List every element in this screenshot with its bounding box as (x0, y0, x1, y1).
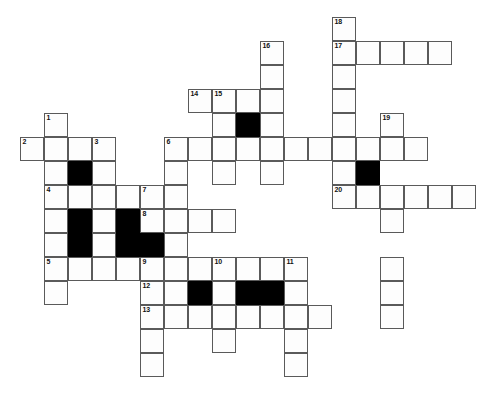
crossword-cell[interactable]: 17 (332, 41, 356, 65)
crossword-cell[interactable] (332, 161, 356, 185)
crossword-cell[interactable] (212, 113, 236, 137)
crossword-cell[interactable]: 14 (188, 89, 212, 113)
crossword-cell[interactable]: 4 (44, 185, 68, 209)
crossword-cell[interactable] (92, 185, 116, 209)
crossword-cell[interactable]: 8 (140, 209, 164, 233)
crossword-grid[interactable]: 1816171415119236472085910111213 (0, 0, 489, 405)
crossword-cell[interactable] (164, 305, 188, 329)
crossword-cell[interactable]: 15 (212, 89, 236, 113)
crossword-cell[interactable] (356, 41, 380, 65)
crossword-cell[interactable]: 9 (140, 257, 164, 281)
crossword-cell[interactable] (260, 257, 284, 281)
crossword-cell[interactable] (356, 185, 380, 209)
crossword-cell[interactable] (164, 161, 188, 185)
cell-number-17: 17 (335, 42, 342, 50)
crossword-cell[interactable] (188, 305, 212, 329)
crossword-cell[interactable] (236, 305, 260, 329)
crossword-cell[interactable] (116, 257, 140, 281)
crossword-cell[interactable] (260, 89, 284, 113)
crossword-cell[interactable] (212, 305, 236, 329)
crossword-cell[interactable] (92, 161, 116, 185)
crossword-cell[interactable] (332, 113, 356, 137)
crossword-cell[interactable] (308, 137, 332, 161)
crossword-cell[interactable]: 6 (164, 137, 188, 161)
crossword-cell[interactable] (164, 209, 188, 233)
crossword-cell[interactable] (44, 209, 68, 233)
crossword-cell[interactable] (188, 209, 212, 233)
crossword-cell[interactable] (68, 137, 92, 161)
crossword-cell[interactable]: 7 (140, 185, 164, 209)
crossword-cell[interactable] (284, 281, 308, 305)
crossword-cell[interactable] (404, 41, 428, 65)
crossword-cell[interactable] (212, 161, 236, 185)
crossword-cell[interactable] (140, 353, 164, 377)
crossword-cell[interactable]: 3 (92, 137, 116, 161)
crossword-cell[interactable] (404, 137, 428, 161)
crossword-cell[interactable] (452, 185, 476, 209)
crossword-cell[interactable] (164, 233, 188, 257)
crossword-cell[interactable]: 2 (20, 137, 44, 161)
crossword-cell[interactable]: 11 (284, 257, 308, 281)
crossword-cell[interactable] (260, 161, 284, 185)
crossword-cell[interactable] (428, 41, 452, 65)
crossword-cell[interactable]: 5 (44, 257, 68, 281)
crossword-cell[interactable] (164, 281, 188, 305)
crossword-cell[interactable] (44, 233, 68, 257)
crossword-cell[interactable] (212, 329, 236, 353)
crossword-cell[interactable] (140, 329, 164, 353)
cell-number-15: 15 (215, 90, 222, 98)
crossword-cell[interactable] (260, 137, 284, 161)
crossword-cell[interactable] (332, 89, 356, 113)
crossword-cell[interactable] (380, 185, 404, 209)
crossword-cell[interactable] (260, 65, 284, 89)
crossword-cell[interactable] (284, 329, 308, 353)
crossword-cell[interactable] (188, 137, 212, 161)
crossword-cell[interactable] (380, 41, 404, 65)
crossword-cell[interactable] (308, 305, 332, 329)
crossword-cell[interactable] (380, 257, 404, 281)
crossword-cell[interactable] (212, 281, 236, 305)
crossword-cell[interactable] (212, 137, 236, 161)
crossword-cell[interactable] (92, 233, 116, 257)
crossword-cell[interactable] (116, 185, 140, 209)
crossword-cell[interactable] (236, 89, 260, 113)
crossword-cell[interactable] (212, 209, 236, 233)
cell-number-4: 4 (47, 186, 51, 194)
crossword-cell[interactable] (380, 305, 404, 329)
crossword-cell[interactable] (68, 257, 92, 281)
crossword-cell[interactable] (332, 137, 356, 161)
crossword-cell[interactable] (284, 137, 308, 161)
crossword-cell[interactable]: 18 (332, 17, 356, 41)
cell-number-14: 14 (191, 90, 198, 98)
crossword-cell[interactable] (44, 161, 68, 185)
crossword-cell[interactable] (332, 65, 356, 89)
crossword-cell[interactable] (92, 209, 116, 233)
crossword-cell[interactable] (380, 137, 404, 161)
crossword-cell[interactable] (92, 257, 116, 281)
crossword-cell[interactable] (260, 305, 284, 329)
crossword-cell[interactable] (284, 353, 308, 377)
crossword-cell[interactable] (404, 185, 428, 209)
crossword-cell[interactable] (164, 257, 188, 281)
crossword-cell[interactable] (188, 257, 212, 281)
crossword-cell[interactable]: 19 (380, 113, 404, 137)
crossword-cell[interactable]: 1 (44, 113, 68, 137)
crossword-cell[interactable] (428, 185, 452, 209)
crossword-cell[interactable] (380, 209, 404, 233)
crossword-cell[interactable]: 16 (260, 41, 284, 65)
crossword-cell[interactable] (68, 185, 92, 209)
crossword-block-cell (260, 281, 284, 305)
crossword-cell[interactable]: 13 (140, 305, 164, 329)
crossword-cell[interactable]: 10 (212, 257, 236, 281)
crossword-cell[interactable] (44, 137, 68, 161)
crossword-cell[interactable] (356, 137, 380, 161)
crossword-cell[interactable]: 20 (332, 185, 356, 209)
crossword-cell[interactable] (260, 113, 284, 137)
crossword-cell[interactable] (284, 305, 308, 329)
crossword-cell[interactable]: 12 (140, 281, 164, 305)
crossword-cell[interactable] (164, 185, 188, 209)
crossword-cell[interactable] (380, 281, 404, 305)
crossword-cell[interactable] (44, 281, 68, 305)
crossword-cell[interactable] (236, 257, 260, 281)
crossword-cell[interactable] (236, 137, 260, 161)
